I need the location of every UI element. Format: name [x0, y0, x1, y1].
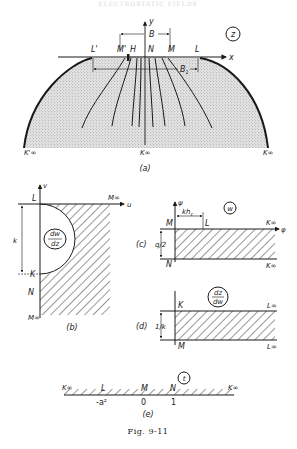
point-M: M [166, 219, 173, 228]
tick-label-M: 0 [141, 398, 146, 407]
panel-b: v u M∞ k L K N M∞ dw dz (b) [13, 182, 132, 332]
inf-label-K-center: K∞ [140, 149, 151, 157]
x-axis-label: x [228, 53, 234, 62]
panel-c: ψ φ w khc M L N K∞ K∞ q/2 (c) [136, 199, 286, 270]
hatched-strip [175, 311, 275, 340]
inf-label-M-top: M∞ [108, 194, 120, 202]
panel-a: x y z B L' M' H N M L B1 [24, 17, 274, 173]
point-L: L [101, 384, 105, 393]
v-axis-label: v [43, 182, 48, 190]
point-H: H [130, 45, 136, 54]
point-N: N [28, 288, 34, 297]
plane-label-t: t [183, 375, 186, 383]
plane-label-den: dz [51, 240, 59, 248]
point-L: L [32, 194, 36, 203]
point-L: L [205, 219, 209, 228]
plane-label-num: dw [50, 230, 60, 238]
plane-label-w: w [227, 205, 233, 213]
point-N: N [148, 45, 154, 54]
point-K: K [30, 270, 36, 279]
inf-label-K-bottom: K∞ [266, 262, 277, 270]
inf-label-K-top: K∞ [266, 219, 277, 227]
hatched-region [40, 204, 110, 315]
figure-9-11: ELECTROSTATIC FIELDS x y z B L' M' H N M… [0, 0, 297, 449]
dim-k-label: k [13, 237, 18, 245]
caption-d: (d) [136, 322, 147, 331]
point-K: K [178, 301, 184, 310]
panel-d: dz dw K M L∞ L∞ 1/k (d) [136, 287, 277, 351]
inf-label-M-bottom: M∞ [28, 314, 40, 322]
figure-caption: Fig. 9-11 [128, 427, 169, 436]
panel-e: t K∞ K∞ L M N -a² 0 1 (e) [62, 372, 239, 419]
plane-label-num: dz [214, 289, 222, 297]
inf-label-K-right: K∞ [263, 149, 274, 157]
u-axis-label: u [127, 201, 132, 209]
inf-label-L-bottom: L∞ [267, 343, 277, 351]
caption-b: (b) [66, 323, 77, 332]
plane-label-z: z [230, 30, 236, 39]
phi-axis-label: φ [281, 226, 286, 234]
plane-label-den: dw [213, 298, 223, 306]
caption-a: (a) [139, 164, 150, 173]
running-head: ELECTROSTATIC FIELDS [98, 0, 197, 7]
caption-c: (c) [136, 240, 147, 249]
point-N: N [170, 384, 176, 393]
hatched-strip [175, 229, 275, 259]
inf-label-K-prime: K'∞ [24, 149, 37, 157]
y-axis-label: y [148, 17, 154, 26]
inf-label-K-right: K∞ [228, 384, 239, 392]
point-M: M [141, 384, 148, 393]
tick-label-N: 1 [171, 398, 176, 407]
inf-label-L-top: L∞ [267, 302, 277, 310]
dim-1k-label: 1/k [155, 323, 167, 331]
point-M-prime: M' [117, 45, 126, 54]
tick-label-L: -a² [96, 398, 107, 407]
caption-e: (e) [142, 410, 153, 419]
point-L-prime: L' [91, 45, 98, 54]
point-M: M [178, 342, 185, 351]
dim-B-label: B [149, 30, 155, 39]
hatched-band [64, 389, 234, 395]
dim-q2-label: q/2 [155, 241, 167, 249]
inf-label-K-left: K∞ [62, 384, 73, 392]
point-N: N [166, 260, 172, 269]
point-L: L [195, 45, 199, 54]
psi-axis-label: ψ [178, 199, 183, 207]
edge-marker-E [127, 54, 130, 61]
dim-khc-label: khc [182, 208, 194, 217]
point-M: M [168, 45, 175, 54]
field-region [24, 56, 268, 148]
